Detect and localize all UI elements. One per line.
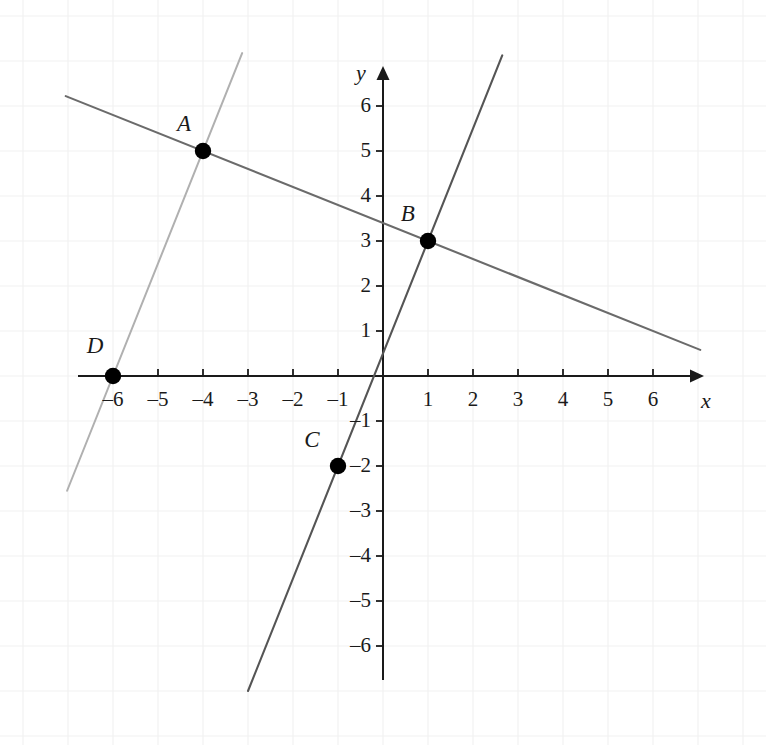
data-point-C xyxy=(330,458,346,474)
x-tick-label-neg4: –4 xyxy=(193,389,214,410)
y-tick-label-neg5: –5 xyxy=(350,590,371,611)
data-point-B xyxy=(420,233,436,249)
y-tick-label-6: 6 xyxy=(361,95,372,116)
point-label-D: D xyxy=(87,334,104,357)
y-tick-label-neg2: –2 xyxy=(350,455,371,476)
x-axis-arrowhead-icon xyxy=(690,370,704,383)
x-axis-label: x xyxy=(701,390,711,412)
x-tick-label-6: 6 xyxy=(648,389,659,410)
data-point-D xyxy=(105,368,121,384)
x-tick-label-2: 2 xyxy=(468,389,479,410)
y-tick-label-4: 4 xyxy=(361,185,372,206)
y-tick-label-1: 1 xyxy=(361,320,372,341)
y-tick-label-neg1: –1 xyxy=(350,410,371,431)
line-DA xyxy=(67,53,242,491)
x-tick-label-neg5: –5 xyxy=(148,389,169,410)
coordinate-plane-figure: –6–5–4–3–2–1123456–6–5–4–3–2–1123456xyAB… xyxy=(0,0,766,745)
y-tick-label-neg3: –3 xyxy=(350,500,371,521)
x-tick-label-neg1: –1 xyxy=(328,389,349,410)
x-tick-label-3: 3 xyxy=(513,389,524,410)
point-label-C: C xyxy=(304,428,319,451)
x-tick-label-4: 4 xyxy=(558,389,569,410)
x-tick-label-neg2: –2 xyxy=(283,389,304,410)
x-tick-label-neg3: –3 xyxy=(238,389,259,410)
y-tick-label-neg6: –6 xyxy=(350,635,371,656)
y-tick-label-neg4: –4 xyxy=(350,545,371,566)
x-tick-label-1: 1 xyxy=(423,389,434,410)
points-layer xyxy=(105,143,436,474)
plot-canvas xyxy=(0,0,766,745)
y-tick-label-3: 3 xyxy=(361,230,372,251)
point-label-B: B xyxy=(401,202,415,225)
y-axis-arrowhead-icon xyxy=(377,66,390,80)
y-tick-label-5: 5 xyxy=(361,140,372,161)
y-axis-label: y xyxy=(356,62,366,84)
data-point-A xyxy=(195,143,211,159)
point-label-A: A xyxy=(177,112,191,135)
x-tick-label-5: 5 xyxy=(603,389,614,410)
y-tick-label-2: 2 xyxy=(361,275,372,296)
axes-layer xyxy=(78,66,704,680)
x-tick-label-neg6: –6 xyxy=(103,389,124,410)
